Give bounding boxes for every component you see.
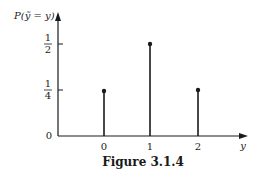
- y-axis-label: P(ỹ = y): [13, 10, 55, 21]
- x-axis-arrow-icon: [239, 133, 248, 139]
- x-axis-label: y: [239, 140, 246, 151]
- stem-1: [148, 42, 152, 136]
- x-tick-label-1: 1: [147, 141, 153, 152]
- stem-0: [102, 89, 106, 136]
- stem-chart: P(ỹ = y) 1 2 1 4 0 0 1 2 y Figure 3.1.4: [0, 0, 261, 173]
- x-tick-label-0: 0: [101, 141, 107, 152]
- data-point: [148, 42, 152, 46]
- y-tick-label-quarter-num: 1: [45, 78, 51, 89]
- y-tick-label-zero: 0: [46, 130, 52, 141]
- data-point: [102, 89, 106, 93]
- x-tick-label-2: 2: [195, 141, 201, 152]
- y-axis-arrow-icon: [55, 12, 61, 21]
- data-point: [196, 88, 200, 92]
- y-tick-label-quarter-den: 4: [45, 90, 51, 101]
- y-tick-label-half-den: 2: [45, 44, 51, 55]
- stem-2: [196, 88, 200, 136]
- figure-caption: Figure 3.1.4: [102, 155, 184, 169]
- y-tick-label-half-num: 1: [45, 32, 51, 43]
